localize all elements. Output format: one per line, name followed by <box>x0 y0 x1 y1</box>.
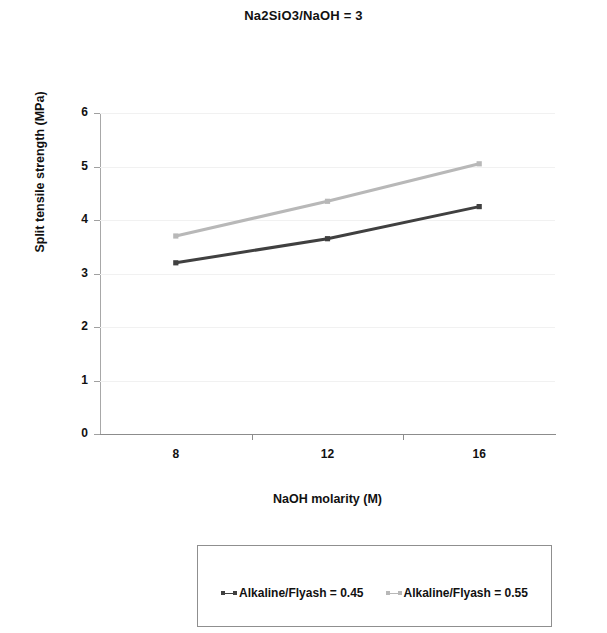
chart-title: Na2SiO3/NaOH = 3 <box>0 8 607 23</box>
y-axis-title: Split tensile strength (MPa) <box>33 42 47 302</box>
x-tick-label: 8 <box>146 447 206 461</box>
gridline <box>100 113 555 114</box>
x-tick-mark <box>403 434 404 440</box>
legend-label: Alkaline/Flyash = 0.45 <box>239 586 363 600</box>
y-tick-label: 6 <box>56 105 88 119</box>
y-tick-label: 3 <box>56 266 88 280</box>
gridline <box>100 220 555 221</box>
x-axis-line <box>100 434 556 435</box>
gridline <box>100 327 555 328</box>
y-tick-mark <box>94 327 100 328</box>
y-tick-mark <box>94 274 100 275</box>
legend-entry[interactable]: Alkaline/Flyash = 0.45 <box>221 586 363 600</box>
y-tick-mark <box>94 434 100 435</box>
legend-box: Alkaline/Flyash = 0.45Alkaline/Flyash = … <box>197 545 552 627</box>
legend-entry[interactable]: Alkaline/Flyash = 0.55 <box>386 586 528 600</box>
legend-entries: Alkaline/Flyash = 0.45Alkaline/Flyash = … <box>198 586 551 600</box>
gridline <box>100 274 555 275</box>
x-tick-mark <box>252 434 253 440</box>
gridline <box>100 381 555 382</box>
y-tick-mark <box>94 220 100 221</box>
y-tick-label: 5 <box>56 159 88 173</box>
y-tick-label: 1 <box>56 373 88 387</box>
legend-swatch-icon <box>221 589 237 598</box>
y-tick-mark <box>94 167 100 168</box>
legend-label: Alkaline/Flyash = 0.55 <box>404 586 528 600</box>
gridline <box>100 167 555 168</box>
x-axis-title: NaOH molarity (M) <box>100 492 555 506</box>
x-tick-label: 16 <box>449 447 509 461</box>
y-tick-label: 4 <box>56 212 88 226</box>
y-tick-mark <box>94 381 100 382</box>
chart-figure: Na2SiO3/NaOH = 3 Split tensile strength … <box>0 0 607 633</box>
y-tick-label: 2 <box>56 319 88 333</box>
legend-swatch-icon <box>386 589 402 598</box>
y-tick-label: 0 <box>56 426 88 440</box>
y-tick-mark <box>94 113 100 114</box>
plot-area <box>100 113 555 434</box>
x-tick-label: 12 <box>298 447 358 461</box>
